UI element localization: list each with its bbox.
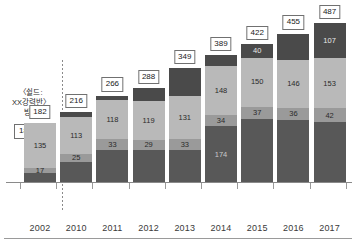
bar-segment-segment-bottom [169, 150, 201, 183]
bar-segment-segment-mid: 36 [277, 108, 309, 120]
x-tick [346, 183, 347, 189]
bar-segment-segment-light: 150 [241, 58, 273, 107]
stacked-bar-chart: 〈쉴드: XX강력반〉 방송 182 182135172161132526611… [0, 0, 354, 243]
bar-segment-segment-light: 148 [205, 66, 237, 115]
bar-segment-segment-light: 135 [24, 123, 56, 167]
bar-total-label: 288 [138, 70, 159, 85]
bar-total-label: 216 [66, 94, 87, 109]
bar-column-2010[interactable]: 21611325 [60, 112, 92, 183]
bar-segment-segment-mid: 25 [60, 154, 92, 162]
x-tick [237, 183, 238, 189]
bar-column-2015[interactable]: 4224015037 [241, 44, 273, 183]
bar-segment-segment-light: 131 [169, 96, 201, 139]
x-tick [20, 183, 21, 189]
bar-segment-segment-top [277, 34, 309, 60]
x-tick [310, 183, 311, 189]
bar-total-label: 349 [174, 50, 195, 65]
x-axis-label-2017: 2017 [308, 223, 352, 233]
x-tick [56, 183, 57, 189]
annotation-line-1: 〈쉴드: [2, 88, 60, 98]
bar-segment-segment-mid: 29 [133, 140, 165, 150]
bar-column-2016[interactable]: 45514636 [277, 34, 309, 183]
bar-segment-segment-top [133, 88, 165, 100]
bar-column-2011[interactable]: 26611833 [96, 96, 128, 183]
bar-segment-segment-light: 153 [314, 58, 346, 108]
bar-segment-segment-bottom [133, 150, 165, 184]
bar-segment-segment-mid: 42 [314, 108, 346, 122]
x-axis-line [6, 182, 352, 183]
bar-segment-segment-mid: 33 [96, 139, 128, 150]
bar-segment-segment-mid: 34 [205, 115, 237, 126]
bar-total-label: 422 [247, 26, 268, 41]
bar-segment-segment-top [205, 55, 237, 66]
bar-column-2013[interactable]: 34913133 [169, 68, 201, 183]
bar-segment-segment-bottom [60, 162, 92, 183]
x-tick [273, 183, 274, 189]
x-tick [165, 183, 166, 189]
bar-total-label: 182 [29, 105, 50, 120]
bar-column-2017[interactable]: 48710715342 [314, 23, 346, 183]
bar-segment-segment-mid: 33 [169, 139, 201, 150]
x-tick [201, 183, 202, 189]
bar-segment-segment-bottom [241, 119, 273, 183]
bar-segment-segment-light: 118 [96, 100, 128, 139]
bar-column-2014[interactable]: 38914834174 [205, 55, 237, 183]
bar-segment-segment-top: 40 [241, 44, 273, 57]
bar-segment-segment-light: 119 [133, 101, 165, 140]
bar-segment-segment-bottom [96, 150, 128, 183]
bar-total-label: 487 [319, 5, 340, 20]
bar-column-2012[interactable]: 28811929 [133, 88, 165, 183]
bar-segment-segment-bottom [314, 122, 346, 183]
bar-total-label: 389 [210, 37, 231, 52]
chart-baseline-rule [4, 238, 352, 239]
bar-segment-segment-bottom [277, 120, 309, 183]
bar-total-label: 266 [102, 77, 123, 92]
bar-segment-segment-mid: 37 [241, 107, 273, 119]
bar-segment-segment-top [169, 68, 201, 96]
bar-segment-segment-light: 146 [277, 60, 309, 108]
bar-segment-segment-light: 113 [60, 117, 92, 154]
bar-total-label: 455 [283, 15, 304, 30]
plot-area: 〈쉴드: XX강력반〉 방송 182 182135172161132526611… [0, 0, 354, 213]
bar-segment-segment-bottom: 174 [205, 126, 237, 183]
bar-column-2002[interactable]: 18213517 [24, 123, 56, 183]
x-tick [92, 183, 93, 189]
bar-segment-segment-top: 107 [314, 23, 346, 58]
x-tick [129, 183, 130, 189]
